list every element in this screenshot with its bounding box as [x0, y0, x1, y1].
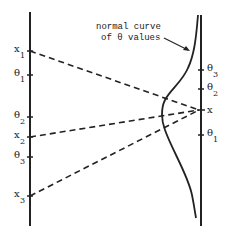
dashed-connections — [30, 51, 199, 196]
right-axis-labels: θ 3 θ 2 x θ 1 — [207, 62, 218, 144]
label-x2-sub: 2 — [20, 137, 25, 146]
label-theta3-right-sub: 3 — [213, 70, 218, 79]
normal-curve-diagram: normal curve of θ values x 1 θ 1 θ 2 x 2… — [0, 0, 228, 236]
label-theta1-left-sub: 1 — [20, 75, 25, 84]
label-x-right: x — [207, 104, 213, 115]
label-x1-sub: 1 — [20, 51, 25, 60]
label-theta2-left-sub: 2 — [20, 117, 25, 126]
label-theta2-right-sub: 2 — [213, 89, 218, 98]
annotation-line-2: of θ values — [101, 33, 160, 43]
dashed-line-x1-to-x — [30, 51, 199, 110]
label-x3-sub: 3 — [20, 196, 25, 205]
left-axis-labels: x 1 θ 1 θ 2 x 2 θ 3 x 3 — [14, 43, 25, 205]
label-theta1-right-sub: 1 — [213, 135, 218, 144]
label-theta3-left-sub: 3 — [20, 157, 25, 166]
annotation-line-1: normal curve — [96, 22, 161, 32]
